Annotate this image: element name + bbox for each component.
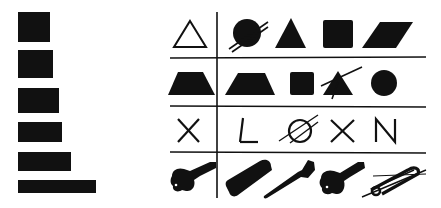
row-1 xyxy=(174,18,413,52)
bar-6 xyxy=(18,180,96,193)
letter-x xyxy=(331,120,354,142)
row-divider-2 xyxy=(170,106,426,107)
key-icon xyxy=(171,162,216,191)
letter-slashed-o xyxy=(279,115,318,143)
solid-square-icon xyxy=(323,20,353,48)
solid-circle-icon xyxy=(371,70,397,96)
toothbrush-icon xyxy=(264,160,315,198)
solid-parallelogram-icon xyxy=(362,22,413,48)
row-divider-1 xyxy=(170,57,426,58)
bar-1 xyxy=(18,12,50,42)
bar-4 xyxy=(18,122,62,142)
slashed-circle-icon xyxy=(229,19,268,52)
row-divider-3 xyxy=(170,152,426,153)
solid-square-icon xyxy=(290,72,314,95)
figure-canvas xyxy=(0,0,441,208)
row-4 xyxy=(171,160,426,199)
solid-triangle-icon xyxy=(275,18,306,48)
slashed-safety-pin-icon xyxy=(362,168,426,197)
bar-5 xyxy=(18,152,71,171)
bar-3 xyxy=(18,88,59,113)
comb-icon xyxy=(226,160,272,197)
bar-stack xyxy=(18,12,96,193)
bar-2 xyxy=(18,50,53,78)
letter-l xyxy=(240,118,258,142)
outline-triangle-icon xyxy=(174,21,206,47)
slashed-triangle-icon xyxy=(321,67,362,99)
row-3 xyxy=(178,115,395,143)
solid-trapezoid-icon xyxy=(225,73,275,95)
letter-x-sample xyxy=(178,119,199,142)
key-icon xyxy=(320,162,365,194)
solid-trapezoid-icon xyxy=(168,72,215,95)
row-2 xyxy=(168,67,397,99)
letter-n xyxy=(376,119,395,142)
